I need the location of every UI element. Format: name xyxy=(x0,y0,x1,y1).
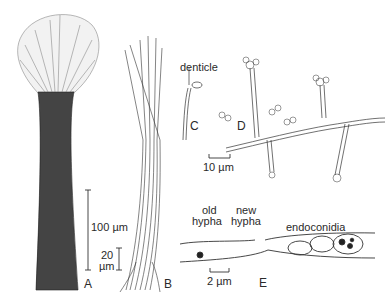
hypha-e xyxy=(180,233,375,262)
panel-label-a: A xyxy=(84,278,92,290)
panel-label-d: D xyxy=(237,120,246,132)
scale-a: 100 µm xyxy=(91,222,128,233)
panel-label-b: B xyxy=(164,278,172,290)
scale-d: 10 µm xyxy=(203,162,234,173)
synnema-a xyxy=(18,15,99,290)
label-endoconidia: endoconidia xyxy=(286,222,345,233)
scale-e: 2 µm xyxy=(207,276,232,287)
panel-label-e: E xyxy=(259,277,267,289)
hyphal-bundle-b xyxy=(120,36,162,292)
label-denticle: denticle xyxy=(180,62,218,73)
scale-b-2: µm xyxy=(99,261,115,272)
label-new-2: hypha xyxy=(231,216,261,227)
label-old-2: hypha xyxy=(192,216,222,227)
figure-drawing xyxy=(0,0,392,299)
panel-label-c: C xyxy=(190,120,199,132)
